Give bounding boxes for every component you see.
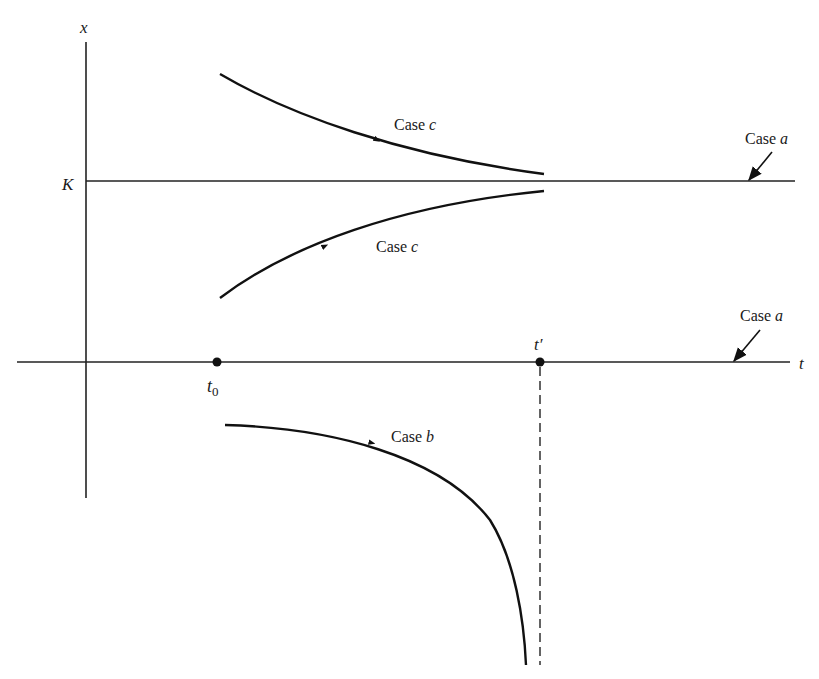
case-b-label: Case b xyxy=(391,428,434,445)
solution-curves-diagram: x K t t0 t′ Case c Case c Case b Case a … xyxy=(0,0,819,679)
case-a-k-pointer-icon xyxy=(749,152,772,180)
tprime-label: t′ xyxy=(534,335,543,354)
case-c-upper-curve xyxy=(220,74,544,174)
case-a-k-label: Case a xyxy=(745,130,788,147)
case-a-zero-label: Case a xyxy=(740,307,783,324)
case-c-lower-label: Case c xyxy=(376,238,418,255)
case-c-lower-arrow-icon xyxy=(313,246,325,252)
case-b-arrow-icon xyxy=(360,440,372,443)
t0-point xyxy=(213,358,222,367)
k-label: K xyxy=(61,175,75,194)
case-a-zero-pointer-icon xyxy=(734,330,760,361)
case-b-curve xyxy=(225,425,526,665)
t0-label: t0 xyxy=(207,376,219,399)
tprime-point xyxy=(536,358,545,367)
x-axis-label: x xyxy=(79,18,88,37)
case-c-upper-label: Case c xyxy=(394,116,436,133)
t-axis-label: t xyxy=(799,354,805,373)
